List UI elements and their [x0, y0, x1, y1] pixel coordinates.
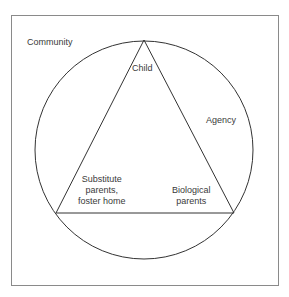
substitute-line-2: parents, [78, 185, 126, 196]
substitute-line-3: foster home [78, 196, 126, 207]
substitute-line-1: Substitute [78, 174, 126, 185]
community-label: Community [27, 37, 73, 48]
biological-parents-label: Biological parents [172, 185, 211, 207]
agency-label: Agency [206, 115, 236, 126]
child-label: Child [132, 63, 153, 74]
biological-line-2: parents [172, 196, 211, 207]
biological-line-1: Biological [172, 185, 211, 196]
substitute-parents-label: Substitute parents, foster home [78, 174, 126, 207]
